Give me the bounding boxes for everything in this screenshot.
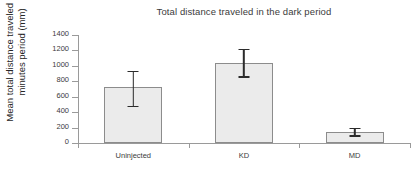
error-bar-line xyxy=(133,71,134,107)
plot-area: 0200400600800100012001400 xyxy=(78,35,410,143)
y-tick-label: 1000 xyxy=(39,60,69,69)
y-tick-label: 0 xyxy=(39,137,69,146)
x-axis-tick xyxy=(78,143,79,148)
error-bar xyxy=(349,128,360,137)
y-tick-label: 1200 xyxy=(39,44,69,53)
y-axis-title-line-2: minutes period (mm) xyxy=(16,0,28,122)
y-axis-title-line-1: Mean total distance traveled in to xyxy=(4,0,16,122)
error-bar-cap-bottom xyxy=(349,135,360,136)
error-bar-cap-top xyxy=(238,49,249,50)
bar-group xyxy=(189,35,300,143)
x-axis-label-md: MD xyxy=(299,151,410,160)
error-bar-cap-top xyxy=(349,128,360,129)
bar-group xyxy=(299,35,410,143)
y-tick-label: 400 xyxy=(39,106,69,115)
x-axis-label-uninjected: Uninjected xyxy=(78,151,189,160)
y-axis-title: Mean total distance traveled in to minut… xyxy=(4,0,32,122)
x-axis-tick xyxy=(299,143,300,148)
x-axis-tick xyxy=(410,143,411,148)
chart-figure: Total distance traveled in the dark peri… xyxy=(0,0,418,174)
error-bar-cap-bottom xyxy=(128,106,139,107)
bar-group xyxy=(78,35,189,143)
y-tick-label: 800 xyxy=(39,75,69,84)
chart-title: Total distance traveled in the dark peri… xyxy=(78,6,410,17)
error-bar-cap-bottom xyxy=(238,76,249,77)
y-tick-label: 200 xyxy=(39,122,69,131)
error-bar-line xyxy=(243,49,244,78)
error-bar xyxy=(128,71,139,107)
error-bar-cap-top xyxy=(128,71,139,72)
x-axis-label-kd: KD xyxy=(189,151,300,160)
x-axis-tick xyxy=(189,143,190,148)
y-tick-label: 600 xyxy=(39,91,69,100)
error-bar xyxy=(238,49,249,78)
x-axis-line xyxy=(78,143,410,144)
y-tick-label: 1400 xyxy=(39,29,69,38)
